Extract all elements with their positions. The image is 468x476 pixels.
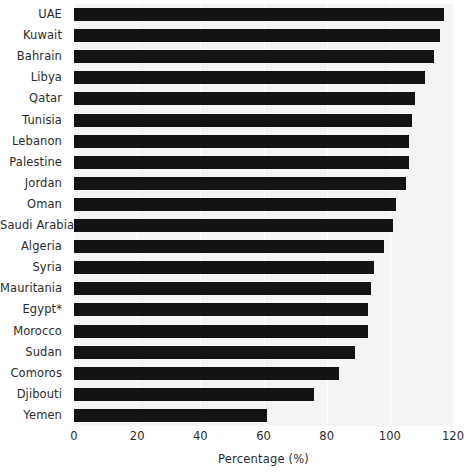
category-label: Syria (0, 257, 68, 278)
bar-morocco[interactable] (74, 325, 368, 338)
bar-row (74, 342, 453, 363)
bar-row (74, 321, 453, 342)
category-label: Mauritania (0, 278, 68, 299)
category-label: Sudan (0, 342, 68, 363)
bar-palestine[interactable] (74, 156, 409, 169)
bar-lebanon[interactable] (74, 135, 409, 148)
bar-row (74, 384, 453, 405)
bar-djibouti[interactable] (74, 388, 314, 401)
bar-sudan[interactable] (74, 346, 355, 359)
category-label: Jordan (0, 173, 68, 194)
category-label: Djibouti (0, 384, 68, 405)
bar-row (74, 215, 453, 236)
category-label: Qatar (0, 88, 68, 109)
x-tick-label-20: 20 (130, 429, 145, 443)
bar-row (74, 299, 453, 320)
bar-comoros[interactable] (74, 367, 339, 380)
bar-kuwait[interactable] (74, 29, 440, 42)
bar-row (74, 25, 453, 46)
bar-row (74, 131, 453, 152)
bar-algeria[interactable] (74, 240, 384, 253)
x-tick-label-0: 0 (70, 429, 77, 443)
bar-row (74, 152, 453, 173)
bar-row (74, 278, 453, 299)
category-label: Saudi Arabia (0, 215, 68, 236)
bar-jordan[interactable] (74, 177, 406, 190)
bar-row (74, 363, 453, 384)
bar-row (74, 4, 453, 25)
category-label: Yemen (0, 405, 68, 426)
bar-row (74, 173, 453, 194)
category-label: Tunisia (0, 110, 68, 131)
bar-row (74, 110, 453, 131)
category-label: Algeria (0, 236, 68, 257)
bar-chart: UAEKuwaitBahrainLibyaQatarTunisiaLebanon… (0, 0, 468, 476)
bar-oman[interactable] (74, 198, 396, 211)
bar-row (74, 67, 453, 88)
x-axis-ticks: 020406080100120 (74, 426, 453, 448)
bar-bahrain[interactable] (74, 50, 434, 63)
category-label: Morocco (0, 321, 68, 342)
bar-row (74, 194, 453, 215)
x-tick-label-100: 100 (379, 429, 401, 443)
category-label: Palestine (0, 152, 68, 173)
bar-row (74, 46, 453, 67)
x-tick-label-60: 60 (256, 429, 271, 443)
bar-row (74, 88, 453, 109)
category-label: Bahrain (0, 46, 68, 67)
plot-area (74, 4, 453, 426)
bar-row (74, 257, 453, 278)
category-label: Kuwait (0, 25, 68, 46)
category-label: Libya (0, 67, 68, 88)
bar-syria[interactable] (74, 261, 374, 274)
bar-egypt[interactable] (74, 303, 368, 316)
bar-yemen[interactable] (74, 409, 267, 422)
bar-qatar[interactable] (74, 92, 415, 105)
bar-libya[interactable] (74, 71, 425, 84)
bar-mauritania[interactable] (74, 282, 371, 295)
category-label: Comoros (0, 363, 68, 384)
x-tick-label-120: 120 (442, 429, 464, 443)
x-axis-title: Percentage (%) (74, 452, 453, 466)
bar-uae[interactable] (74, 8, 444, 21)
bar-row (74, 236, 453, 257)
x-tick-label-40: 40 (193, 429, 208, 443)
category-label: Lebanon (0, 131, 68, 152)
bar-row (74, 405, 453, 426)
bar-saudi-arabia[interactable] (74, 219, 393, 232)
category-axis-labels: UAEKuwaitBahrainLibyaQatarTunisiaLebanon… (0, 4, 68, 426)
x-tick-label-80: 80 (319, 429, 334, 443)
category-label: Oman (0, 194, 68, 215)
category-label: UAE (0, 4, 68, 25)
category-label: Egypt* (0, 299, 68, 320)
bar-tunisia[interactable] (74, 114, 412, 127)
